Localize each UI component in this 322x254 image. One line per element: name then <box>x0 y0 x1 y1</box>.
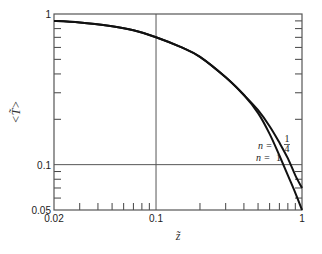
curve-n-one <box>54 21 302 210</box>
minor-ticks <box>54 21 302 210</box>
chart: 0.020.110.050.11 <T̃> z̃ n = 1 4 n = 1 <box>0 0 322 254</box>
series-label-n-quarter-text: n = <box>258 140 272 151</box>
series-label-n-one-text: n = <box>256 152 270 163</box>
series-label-n-one-value: 1 <box>276 152 281 163</box>
y-tick-label: 0.1 <box>37 160 51 171</box>
curves <box>54 21 302 210</box>
x-tick-label: 0.1 <box>149 213 163 224</box>
x-axis-label: z̃ <box>175 229 181 243</box>
y-tick-label: 1 <box>45 9 51 20</box>
plot-frame <box>54 14 302 210</box>
y-axis-label: <T̃> <box>9 101 23 124</box>
x-tick-label: 1 <box>299 213 305 224</box>
series-label-n-one: n = 1 <box>256 152 281 163</box>
reference-lines <box>54 14 302 210</box>
y-tick-label: 0.05 <box>32 205 52 216</box>
series-label-n-quarter-denominator: 4 <box>285 143 290 154</box>
